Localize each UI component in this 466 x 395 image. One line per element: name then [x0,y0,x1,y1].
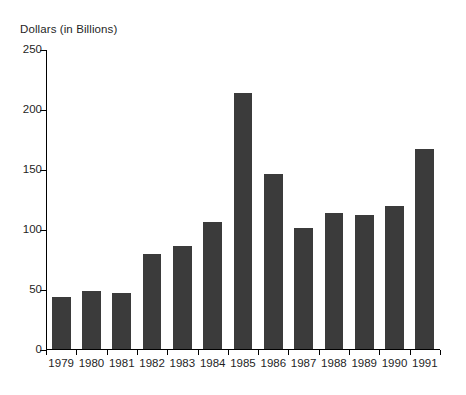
x-tick-mark [167,350,168,355]
plot-area: 050100150200250 [46,50,440,350]
x-tick-label: 1981 [107,356,137,370]
bar [143,254,162,349]
y-tick-label: 200 [23,103,42,116]
x-tick-label: 1990 [379,356,409,370]
y-tick-label: 0 [36,343,42,356]
x-tick-label: 1989 [349,356,379,370]
x-tick-label: 1985 [228,356,258,370]
x-axis-labels: 1979198019811982198319841985198619871988… [46,356,440,376]
bar [325,213,344,349]
y-axis-line [46,50,47,350]
bar [355,215,374,349]
y-axis-title: Dollars (in Billions) [20,22,117,36]
x-tick-mark [410,350,411,355]
x-tick-mark [107,350,108,355]
x-tick-label: 1979 [46,356,76,370]
x-tick-mark [440,350,441,355]
x-tick-label: 1991 [410,356,440,370]
x-tick-mark [137,350,138,355]
y-tick-label: 150 [23,163,42,176]
bar [82,291,101,349]
x-tick-label: 1982 [137,356,167,370]
bar [52,297,71,349]
x-tick-label: 1987 [288,356,318,370]
x-tick-label: 1984 [198,356,228,370]
x-tick-mark [288,350,289,355]
y-tick-label: 100 [23,223,42,236]
bar [173,246,192,349]
x-tick-mark [76,350,77,355]
bar [415,149,434,349]
bar-chart-figure: Dollars (in Billions) 050100150200250 19… [0,0,466,395]
bar [234,93,253,349]
bar [112,293,131,349]
x-axis-line [46,349,440,350]
bar [264,174,283,349]
bar [294,228,313,349]
x-tick-mark [228,350,229,355]
x-tick-mark [319,350,320,355]
x-tick-label: 1980 [76,356,106,370]
x-tick-label: 1986 [258,356,288,370]
x-tick-mark [379,350,380,355]
bar [203,222,222,349]
y-tick-label: 50 [29,283,42,296]
y-tick-label: 250 [23,43,42,56]
x-tick-mark [258,350,259,355]
x-tick-mark [46,350,47,355]
x-tick-label: 1988 [319,356,349,370]
x-tick-label: 1983 [167,356,197,370]
x-tick-mark [198,350,199,355]
x-tick-mark [349,350,350,355]
bar [385,206,404,349]
